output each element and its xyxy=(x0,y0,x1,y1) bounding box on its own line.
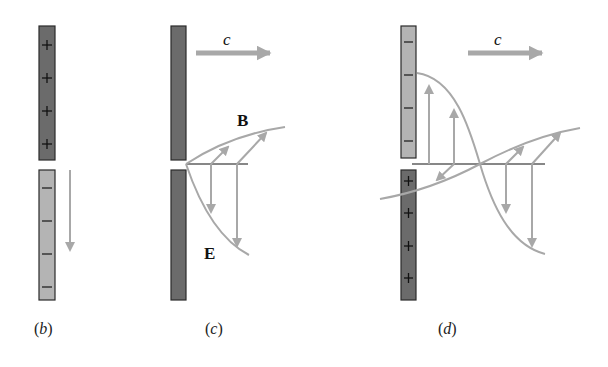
caption-paren: ) xyxy=(217,320,222,337)
panel-b xyxy=(39,26,70,300)
caption-paren: ) xyxy=(47,320,52,337)
panel-d: c xyxy=(380,26,580,300)
caption-d: (d) xyxy=(438,320,457,338)
velocity-label: c xyxy=(494,30,502,49)
b-field-label: B xyxy=(237,111,248,130)
b-vector xyxy=(532,133,560,164)
b-vector xyxy=(211,147,228,164)
e-field-label: E xyxy=(204,244,215,263)
top-plate xyxy=(171,26,186,160)
em-wave-diagram: c B E c xyxy=(0,0,608,367)
panel-c: c B E xyxy=(171,26,285,300)
top-plate-negative xyxy=(401,26,416,158)
e-field-wave xyxy=(186,164,249,255)
caption-paren: ) xyxy=(451,320,456,337)
caption-c: (c) xyxy=(205,320,223,338)
bottom-plate xyxy=(171,170,186,300)
b-field-wave xyxy=(186,127,285,164)
bottom-plate-negative xyxy=(39,170,55,300)
caption-b: (b) xyxy=(34,320,53,338)
velocity-label: c xyxy=(223,30,231,49)
